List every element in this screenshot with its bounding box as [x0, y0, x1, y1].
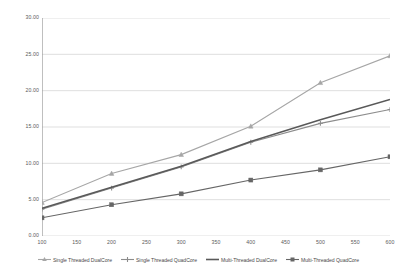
y-tick-label: 30.00: [5, 15, 39, 20]
legend-item[interactable]: Single Threaded DualCore: [38, 256, 112, 263]
x-tick-label: 100: [27, 240, 57, 245]
series-marker-3: [179, 192, 183, 196]
y-tick-label: 25.00: [5, 52, 39, 57]
x-tick-label: 450: [271, 240, 301, 245]
x-tick-label: 200: [97, 240, 127, 245]
legend-item[interactable]: Multi-Threaded QuadCore: [286, 256, 359, 263]
line-chart: 0.005.0010.0015.0020.0025.0030.00 100150…: [0, 0, 397, 277]
series-marker-3: [42, 216, 44, 220]
plot-canvas: [42, 18, 390, 236]
x-tick-label: 350: [201, 240, 231, 245]
legend-item[interactable]: Single Threaded QuadCore: [121, 256, 197, 263]
legend-label: Single Threaded DualCore: [53, 257, 112, 263]
series-line-0: [42, 56, 390, 203]
y-tick-label: 15.00: [5, 124, 39, 129]
series-marker-0: [249, 124, 254, 128]
series-marker-3: [318, 168, 322, 172]
x-tick-label: 550: [340, 240, 370, 245]
legend-label: Multi-Threaded QuadCore: [301, 257, 359, 263]
series-line-3: [42, 157, 390, 218]
line-cross-marker-icon: [121, 256, 134, 263]
series-line-1: [42, 110, 390, 210]
y-tick-label: 5.00: [5, 197, 39, 202]
line-square-marker-icon: [286, 256, 299, 263]
y-tick-label: 10.00: [5, 161, 39, 166]
x-tick-label: 300: [166, 240, 196, 245]
chart-legend: Single Threaded DualCoreSingle Threaded …: [0, 256, 397, 263]
x-tick-label: 500: [305, 240, 335, 245]
x-tick-label: 250: [131, 240, 161, 245]
x-tick-label: 400: [236, 240, 266, 245]
series-marker-3: [388, 155, 390, 159]
legend-label: Multi-Threaded DualCore: [221, 257, 277, 263]
x-tick-label: 150: [62, 240, 92, 245]
line-triangle-marker-icon: [38, 256, 51, 263]
y-tick-label: 20.00: [5, 88, 39, 93]
series-line-2: [42, 99, 390, 208]
x-tick-label: 600: [375, 240, 397, 245]
legend-label: Single Threaded QuadCore: [136, 257, 197, 263]
legend-item[interactable]: Multi-Threaded DualCore: [206, 256, 277, 263]
plot-area: [42, 18, 390, 236]
y-tick-label: 0.00: [5, 233, 39, 238]
series-marker-3: [249, 178, 253, 182]
series-marker-3: [110, 203, 114, 207]
line-plain-icon: [206, 256, 219, 263]
